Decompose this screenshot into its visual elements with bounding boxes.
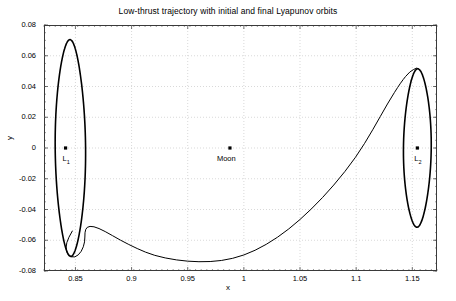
y-tick-label: -0.08 (2, 267, 36, 275)
marker-moon (228, 146, 231, 149)
marker-label-l1: L1 (63, 154, 70, 165)
plot-vector-layer (0, 0, 456, 301)
marker-l2 (416, 146, 419, 149)
grid-lines (44, 25, 437, 271)
y-tick-label: 0.02 (2, 113, 36, 121)
y-tick-label: -0.02 (2, 175, 36, 183)
x-tick-label: 1 (224, 275, 264, 283)
series-transfer-arc (66, 68, 417, 262)
y-axis-label: y (5, 136, 14, 140)
marker-label-moon: Moon (217, 154, 236, 163)
axis-ticks (44, 25, 437, 271)
y-tick-label: 0.04 (2, 83, 36, 91)
marker-l1 (64, 146, 67, 149)
x-tick-label: 0.9 (112, 275, 152, 283)
x-tick-label: 0.85 (55, 275, 95, 283)
x-tick-label: 1.1 (336, 275, 376, 283)
x-axis-label: x (0, 283, 456, 292)
y-tick-label: 0 (2, 144, 36, 152)
marker-label-l2: L2 (414, 154, 421, 165)
y-tick-label: -0.04 (2, 206, 36, 214)
x-tick-label: 1.05 (280, 275, 320, 283)
x-tick-label: 1.15 (392, 275, 432, 283)
data-series (55, 40, 431, 262)
y-tick-label: 0.08 (2, 21, 36, 29)
y-tick-label: -0.06 (2, 236, 36, 244)
x-tick-label: 0.95 (168, 275, 208, 283)
y-tick-label: 0.06 (2, 52, 36, 60)
figure-canvas: Low-thrust trajectory with initial and f… (0, 0, 456, 301)
